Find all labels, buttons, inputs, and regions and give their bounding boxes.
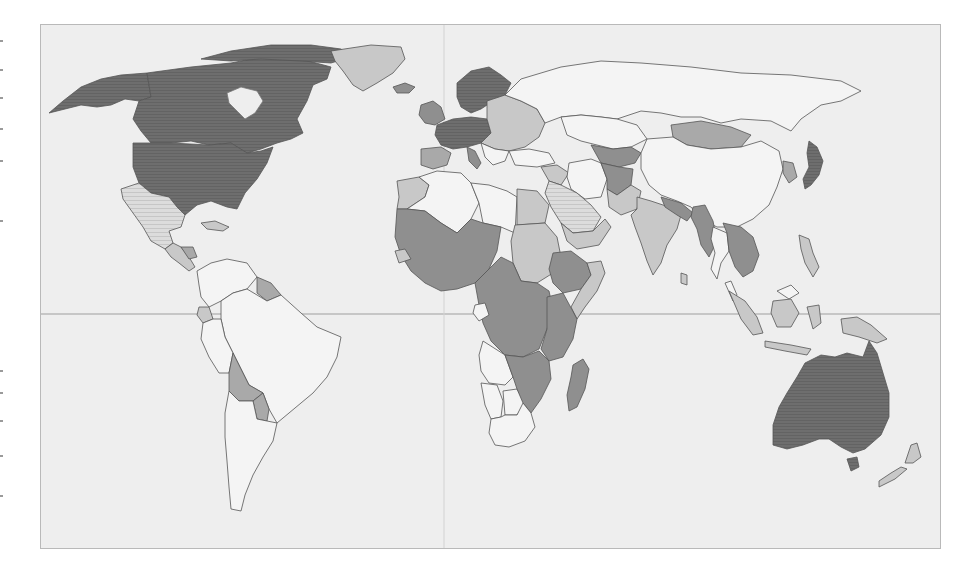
region-new-zealand: [879, 443, 921, 487]
region-turkey: [509, 149, 555, 167]
region-middle-east-north: [541, 165, 569, 185]
region-egypt: [517, 189, 549, 225]
region-madagascar: [567, 359, 589, 411]
region-kazakhstan: [561, 115, 647, 149]
region-iceland: [393, 83, 415, 93]
clipped-margin-marks: [0, 0, 6, 579]
region-iberia: [421, 147, 451, 169]
region-alaska: [49, 73, 151, 113]
region-japan: [803, 141, 823, 189]
region-uk-ireland: [419, 101, 445, 125]
region-cuba: [201, 221, 229, 231]
region-italy: [467, 147, 481, 169]
region-indonesia: [729, 291, 821, 355]
region-tasmania: [847, 457, 859, 471]
region-australia: [773, 341, 889, 453]
world-map: [40, 24, 941, 549]
region-sri-lanka: [681, 273, 687, 285]
region-korea: [783, 161, 797, 183]
region-thailand: [711, 227, 729, 279]
region-greenland: [331, 45, 405, 91]
region-philippines: [799, 235, 819, 277]
region-russia: [505, 61, 861, 131]
region-namibia: [481, 383, 503, 419]
region-papua-new-guinea: [841, 317, 887, 343]
